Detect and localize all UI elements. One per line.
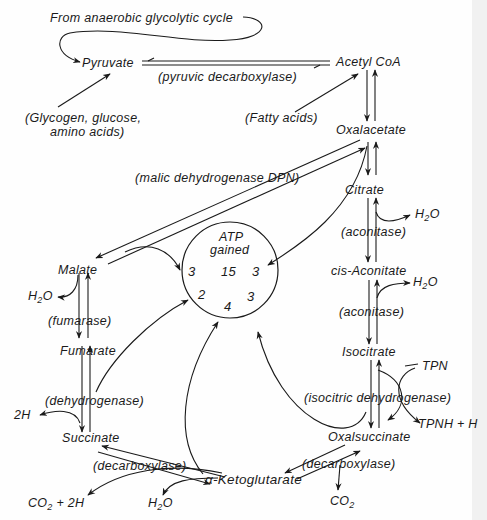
atp-value-isocitrate: 3 <box>247 290 255 303</box>
atp-value-malate: 3 <box>188 265 196 278</box>
byproduct-h2o-citrate: H2O <box>415 208 440 223</box>
compound-oxalacetate: Oxalacetate <box>336 124 406 137</box>
label-glycogen-source-2: amino acids) <box>50 126 124 139</box>
atp-total: 15 <box>221 265 236 278</box>
byproduct-tpnh: TPNH + H <box>418 418 478 431</box>
enzyme-dehydrogenase: (dehydrogenase) <box>45 395 144 408</box>
compound-malate: Malate <box>58 264 97 277</box>
byproduct-2h: 2H <box>14 409 31 422</box>
byproduct-h2o-malate: H2O <box>28 290 53 305</box>
byproduct-co2-2h-left: CO2 + 2H <box>28 497 84 512</box>
enzyme-fumarase: (fumarase) <box>48 315 111 328</box>
atp-title-line2: gained <box>210 244 249 257</box>
compound-isocitrate: Isocitrate <box>342 346 396 359</box>
enzyme-aconitase-2: (aconitase) <box>339 306 404 319</box>
label-glycolytic-source: From anaerobic glycolytic cycle <box>50 12 233 25</box>
enzyme-pyruvic-decarboxylase: (pyruvic decarboxylase) <box>158 71 297 84</box>
enzyme-decarboxylase-left: (decarboxylase) <box>93 460 186 473</box>
compound-pyruvate: Pyruvate <box>82 57 134 70</box>
enzyme-malic-dehydrogenase: (malic dehydrogenase DPN) <box>135 172 300 185</box>
atp-value-succinate: 2 <box>198 288 206 301</box>
label-glycogen-source-1: (Glycogen, glucose, <box>25 112 141 125</box>
enzyme-isocitric-dehydrogenase: (isocitric dehydrogenase) <box>304 392 451 405</box>
byproduct-h2o-aconitate: H2O <box>413 276 438 291</box>
enzyme-aconitase-1: (aconitase) <box>341 226 406 239</box>
enzyme-decarboxylase-right: (decarboxylase) <box>302 458 395 471</box>
compound-fumarate: Fumarate <box>60 345 116 358</box>
compound-citrate: Citrate <box>345 184 384 197</box>
compound-acetyl-coa: Acetyl CoA <box>336 56 401 69</box>
byproduct-h2o-ketoglutarate: H2O <box>148 497 173 512</box>
atp-value-ketoglutarate: 4 <box>224 300 232 313</box>
compound-succinate: Succinate <box>62 432 120 445</box>
diagram-canvas: From anaerobic glycolytic cycle (Glycoge… <box>0 0 487 520</box>
byproduct-co2-right: CO2 <box>330 495 355 510</box>
compound-alpha-ketoglutarate: α-Ketoglutarate <box>205 473 302 487</box>
atp-value-oxalacetate: 3 <box>252 265 260 278</box>
label-fatty-acids: (Fatty acids) <box>245 112 318 125</box>
compound-cis-aconitate: cis-Aconitate <box>331 265 406 278</box>
compound-oxalsuccinate: Oxalsuccinate <box>328 431 410 444</box>
atp-title-line1: ATP <box>219 231 243 244</box>
byproduct-tpn: TPN <box>422 360 448 373</box>
